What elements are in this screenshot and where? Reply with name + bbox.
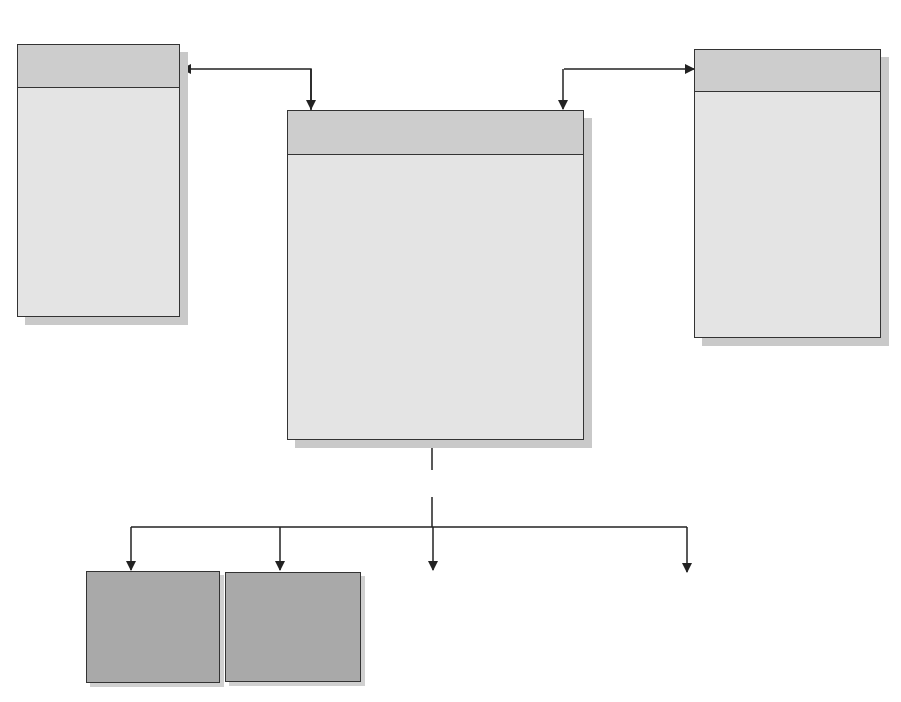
resources-title [695, 50, 880, 92]
reaction-physiological [86, 571, 220, 683]
resources-box [694, 49, 881, 338]
person-title [288, 111, 583, 155]
person-box [287, 110, 584, 440]
stressor-title [18, 45, 179, 88]
stressor-body [18, 88, 179, 94]
resources-body [695, 92, 880, 98]
stressor-box [17, 44, 180, 317]
person-body [288, 155, 583, 161]
reaction-behavioral-box [225, 572, 361, 682]
